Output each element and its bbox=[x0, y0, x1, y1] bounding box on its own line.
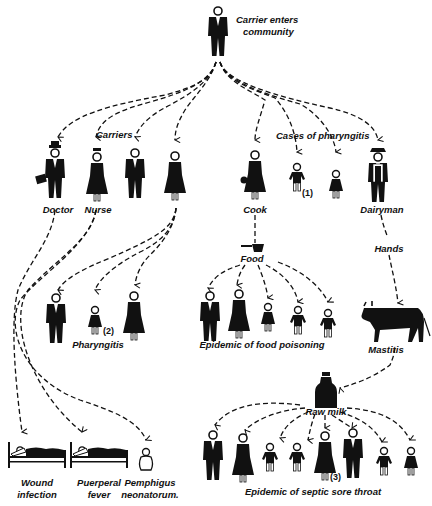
food-poisoning-woman bbox=[228, 290, 250, 338]
pemphigus-label-line1: Pemphigus bbox=[124, 477, 175, 488]
nurse-label: Nurse bbox=[85, 204, 112, 215]
septic-girl bbox=[404, 448, 418, 476]
food-poisoning-girl bbox=[261, 304, 275, 332]
mastitis-label: Mastitis bbox=[368, 344, 403, 355]
food-ladle-icon bbox=[241, 244, 264, 252]
pharyngitis-label: Pharyngitis bbox=[72, 339, 124, 350]
septic-boy-1 bbox=[262, 444, 278, 472]
cook-label: Cook bbox=[243, 204, 267, 215]
root-label-line1: Carrier enters bbox=[236, 14, 298, 25]
pharyngitis-girl bbox=[88, 307, 102, 335]
food-poisoning-boy bbox=[290, 307, 306, 335]
carrier-man-figure bbox=[125, 149, 145, 198]
cases-of-pharyngitis-label: Cases of pharyngitis bbox=[276, 130, 369, 141]
carriers-label: Carriers bbox=[96, 129, 132, 140]
wound-label-line2: infection bbox=[17, 489, 57, 500]
milk-bottle-icon bbox=[315, 372, 337, 408]
doctor-figure bbox=[35, 141, 65, 198]
bed-wound-icon bbox=[8, 442, 66, 468]
dairyman-label: Dairyman bbox=[360, 204, 403, 215]
pemphigus-label-line2: neonatorum. bbox=[121, 489, 179, 500]
puerperal-label-line2: fever bbox=[88, 489, 111, 500]
carrier-woman-figure bbox=[164, 152, 186, 200]
dairyman-figure bbox=[368, 148, 388, 202]
pharyngitis-child-girl bbox=[329, 171, 343, 199]
raw-milk-label: Raw milk bbox=[305, 406, 346, 417]
cook-figure bbox=[241, 151, 267, 199]
transmission-diagram bbox=[0, 0, 432, 506]
nurse-figure bbox=[86, 148, 108, 201]
food-poisoning-man bbox=[200, 292, 220, 341]
wound-label-line1: Wound bbox=[21, 477, 53, 488]
septic-boy-3 bbox=[376, 448, 392, 476]
food-poisoning-child bbox=[320, 310, 336, 338]
puerperal-label-line1: Puerperal bbox=[77, 477, 121, 488]
root-label-line2: community bbox=[243, 26, 294, 37]
food-poisoning-label: Epidemic of food poisoning bbox=[199, 339, 324, 350]
cow-icon bbox=[361, 301, 430, 342]
infant-icon bbox=[140, 449, 153, 471]
septic-boy-2 bbox=[289, 444, 305, 472]
pharyngitis-woman bbox=[123, 292, 145, 340]
septic-man-2 bbox=[343, 429, 363, 478]
bed-puerperal-icon bbox=[70, 442, 128, 468]
count-3-label: (3) bbox=[330, 472, 341, 482]
food-label: Food bbox=[240, 253, 263, 264]
hands-label: Hands bbox=[374, 243, 403, 254]
septic-sore-throat-label: Epidemic of septic sore throat bbox=[245, 486, 381, 497]
doctor-label: Doctor bbox=[43, 204, 74, 215]
count-1-label: (1) bbox=[302, 188, 313, 198]
septic-man-1 bbox=[203, 431, 223, 480]
pharyngitis-man bbox=[46, 294, 66, 343]
septic-woman-1 bbox=[232, 434, 254, 482]
carrier-figure bbox=[208, 7, 228, 56]
count-2-label: (2) bbox=[103, 326, 114, 336]
pharyngitis-child-boy bbox=[289, 164, 305, 192]
